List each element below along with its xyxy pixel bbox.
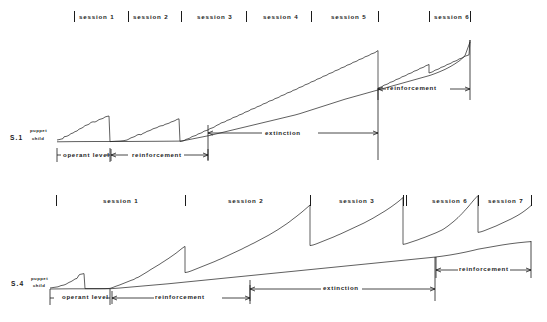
panel-s4-plot <box>0 185 547 322</box>
cumulative-record-figure: session 1 session 2 session 3 session 4 … <box>0 0 547 322</box>
panel-s1: session 1 session 2 session 3 session 4 … <box>0 0 547 170</box>
curve-s1-child <box>57 42 470 142</box>
bracket-operant-level <box>50 289 110 305</box>
bracket-reinforcement-1 <box>112 285 250 304</box>
bracket-extinction <box>208 88 378 160</box>
bracket-extinction <box>250 257 435 301</box>
bracket-reinforcement-2 <box>436 241 531 278</box>
panel-s4: session 1 session 2 session 3 session 6 … <box>0 185 547 322</box>
curve-s4-child <box>50 242 531 289</box>
bracket-operant-level <box>57 148 110 162</box>
panel-s1-plot <box>0 0 547 170</box>
curve-s4-puppet <box>50 196 531 289</box>
bracket-reinforcement-2 <box>378 40 470 100</box>
bracket-reinforcement-1 <box>111 149 208 161</box>
curve-s1-puppet <box>57 40 470 142</box>
